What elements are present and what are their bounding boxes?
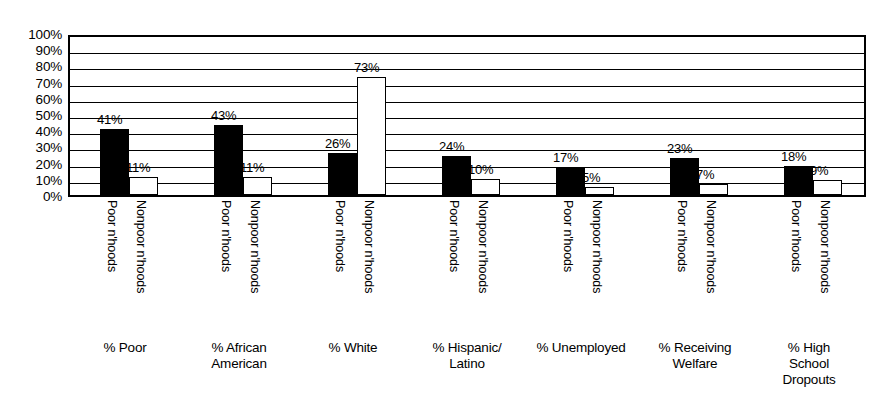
series-label-poor-nhoods: Poor n'hoods [561, 200, 574, 272]
bar-nonpoor-nhoods [357, 77, 386, 195]
y-axis-tick-label: 50% [8, 109, 62, 123]
bars-layer: 41%11%43%11%26%73%24%10%17%5%23%7%18%9% [70, 37, 864, 195]
category-label-line: % African [182, 340, 296, 356]
bar-group: 23%7% [640, 37, 754, 195]
bar-poor-nhoods [214, 125, 243, 195]
category-label: % AfricanAmerican [182, 340, 296, 372]
bar-value-label: 5% [582, 171, 600, 184]
bar-value-label: 43% [211, 109, 236, 122]
bar-poor-nhoods [556, 167, 585, 195]
category-label-line: American [182, 356, 296, 372]
bar-nonpoor-nhoods [699, 184, 728, 195]
bar-nonpoor-nhoods [129, 177, 158, 195]
bar-nonpoor-nhoods [813, 180, 842, 195]
series-label-poor-nhoods: Poor n'hoods [675, 200, 688, 272]
series-label-nonpoor-nhoods: Nonpoor n'hoods [818, 200, 831, 293]
category-label-line: % Receiving [638, 340, 752, 356]
bar-group: 26%73% [298, 37, 412, 195]
bar-value-label: 11% [240, 161, 264, 174]
series-label-nonpoor-nhoods: Nonpoor n'hoods [476, 200, 489, 293]
series-label-poor-nhoods: Poor n'hoods [105, 200, 118, 272]
y-axis-tick-label: 70% [8, 77, 62, 91]
category-label: % ReceivingWelfare [638, 340, 752, 372]
series-label-nonpoor-nhoods: Nonpoor n'hoods [362, 200, 375, 293]
bar-group: 18%9% [754, 37, 868, 195]
bar-value-label: 24% [439, 140, 464, 153]
y-axis-tick-label: 20% [8, 158, 62, 172]
y-axis: 100%90%80%70%60%50%40%30%20%10%0% [8, 28, 62, 204]
bar-nonpoor-nhoods [471, 179, 500, 195]
y-axis-tick-label: 10% [8, 174, 62, 188]
bar-value-label: 26% [325, 137, 350, 150]
y-axis-tick-label: 40% [8, 125, 62, 139]
series-label-nonpoor-nhoods: Nonpoor n'hoods [248, 200, 261, 293]
bar-group: 41%11% [70, 37, 184, 195]
y-axis-tick-label: 0% [8, 190, 62, 204]
bar-value-label: 10% [468, 163, 493, 176]
category-label: % Unemployed [524, 340, 638, 356]
category-label-line: School [752, 356, 866, 372]
category-label: % Poor [68, 340, 182, 356]
bar-value-label: 23% [667, 142, 692, 155]
bar-poor-nhoods [784, 166, 813, 195]
bar-value-label: 11% [126, 161, 150, 174]
series-label-poor-nhoods: Poor n'hoods [789, 200, 802, 272]
bar-value-label: 18% [781, 150, 806, 163]
bar-value-label: 41% [97, 113, 122, 126]
bar-chart: 100%90%80%70%60%50%40%30%20%10%0% 41%11%… [0, 0, 894, 414]
series-label-nonpoor-nhoods: Nonpoor n'hoods [704, 200, 717, 293]
y-axis-tick-label: 30% [8, 141, 62, 155]
category-label-line: Dropouts [752, 372, 866, 388]
series-label-nonpoor-nhoods: Nonpoor n'hoods [134, 200, 147, 293]
series-label-nonpoor-nhoods: Nonpoor n'hoods [590, 200, 603, 293]
category-axis-labels: % Poor% AfricanAmerican% White% Hispanic… [68, 340, 866, 402]
category-label-line: % Poor [68, 340, 182, 356]
bar-nonpoor-nhoods [243, 177, 272, 195]
y-axis-tick-label: 60% [8, 93, 62, 107]
series-axis-labels: Poor n'hoodsNonpoor n'hoodsPoor n'hoodsN… [68, 200, 866, 328]
series-label-poor-nhoods: Poor n'hoods [219, 200, 232, 272]
series-label-poor-nhoods: Poor n'hoods [333, 200, 346, 272]
bar-nonpoor-nhoods [585, 187, 614, 195]
category-label: % Hispanic/Latino [410, 340, 524, 372]
category-label-line: % High [752, 340, 866, 356]
bar-value-label: 17% [553, 151, 578, 164]
y-axis-tick-label: 100% [8, 28, 62, 42]
category-label-line: Latino [410, 356, 524, 372]
bar-poor-nhoods [442, 156, 471, 195]
y-axis-tick-label: 80% [8, 60, 62, 74]
category-label: % White [296, 340, 410, 356]
category-label-line: % Hispanic/ [410, 340, 524, 356]
bar-value-label: 73% [354, 61, 379, 74]
bar-value-label: 9% [810, 164, 828, 177]
y-axis-tick-label: 90% [8, 44, 62, 58]
bar-group: 17%5% [526, 37, 640, 195]
category-label-line: % White [296, 340, 410, 356]
bar-group: 24%10% [412, 37, 526, 195]
bar-poor-nhoods [328, 153, 357, 195]
bar-group: 43%11% [184, 37, 298, 195]
category-label: % HighSchoolDropouts [752, 340, 866, 388]
bar-poor-nhoods [670, 158, 699, 195]
bar-value-label: 7% [696, 168, 714, 181]
category-label-line: % Unemployed [524, 340, 638, 356]
bar-poor-nhoods [100, 129, 129, 195]
plot-area: 41%11%43%11%26%73%24%10%17%5%23%7%18%9% [68, 35, 866, 197]
category-label-line: Welfare [638, 356, 752, 372]
series-label-poor-nhoods: Poor n'hoods [447, 200, 460, 272]
